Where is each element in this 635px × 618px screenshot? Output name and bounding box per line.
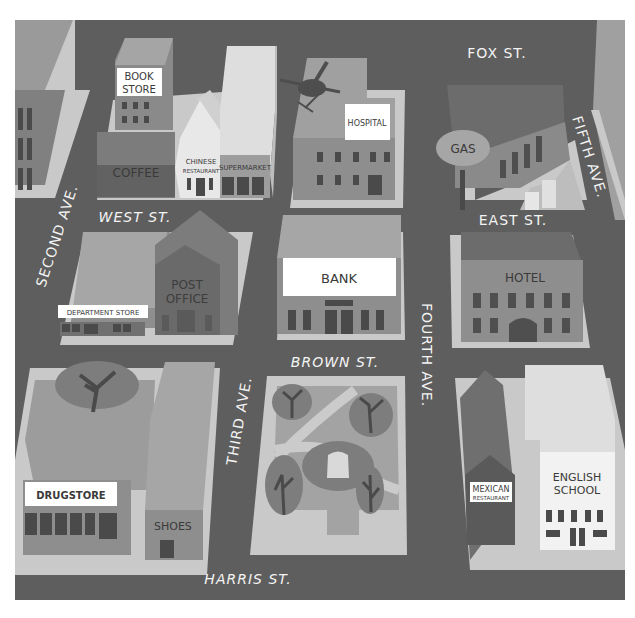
street-label-east: EAST ST. <box>479 212 548 228</box>
park <box>250 376 407 555</box>
tree-icon <box>356 466 384 514</box>
street-label-harris: HARRIS ST. <box>204 571 291 587</box>
block-east-south: MEXICAN RESTAURANT ENGLISH SCHOOL <box>455 365 625 570</box>
block-west-south: SHOES DRUGSTORE <box>15 361 220 575</box>
svg-text:POST: POST <box>171 278 203 292</box>
street-label-fourth: FOURTH AVE. <box>419 303 435 407</box>
svg-text:HOTEL: HOTEL <box>505 271 545 285</box>
svg-text:DRUGSTORE: DRUGSTORE <box>36 490 106 501</box>
street-label-west: WEST ST. <box>99 209 172 225</box>
department-store-building <box>73 232 167 308</box>
town-map: COFFEE BOOK STORE CHINESE RESTAURANT SUP… <box>15 20 625 600</box>
svg-text:ENGLISH: ENGLISH <box>553 471 601 484</box>
svg-text:BANK: BANK <box>321 271 358 286</box>
svg-text:SUPERMARKET: SUPERMARKET <box>219 164 272 172</box>
hotel-roof <box>461 232 581 260</box>
tree-icon <box>265 455 303 515</box>
svg-text:GAS: GAS <box>450 142 475 156</box>
svg-text:BOOK: BOOK <box>125 71 154 82</box>
street-label-brown: BROWN ST. <box>291 354 379 370</box>
svg-text:RESTAURANT: RESTAURANT <box>473 495 510 501</box>
svg-text:HOSPITAL: HOSPITAL <box>348 119 387 128</box>
svg-text:RESTAURANT: RESTAURANT <box>183 168 220 174</box>
svg-text:SCHOOL: SCHOOL <box>554 484 601 497</box>
svg-text:OFFICE: OFFICE <box>166 292 209 306</box>
block-hotel: HOTEL <box>450 232 590 348</box>
tree-icon <box>272 384 312 420</box>
block-bank: BANK <box>277 215 405 340</box>
svg-text:CHINESE: CHINESE <box>186 158 217 166</box>
bank-building <box>277 215 401 258</box>
svg-text:DEPARTMENT STORE: DEPARTMENT STORE <box>67 309 140 317</box>
svg-text:MEXICAN: MEXICAN <box>473 485 510 494</box>
svg-text:STORE: STORE <box>122 84 156 95</box>
svg-text:SHOES: SHOES <box>154 520 192 533</box>
coffee-label: COFFEE <box>113 166 160 180</box>
tree-icon <box>349 393 393 437</box>
street-label-fox: FOX ST. <box>467 45 526 61</box>
